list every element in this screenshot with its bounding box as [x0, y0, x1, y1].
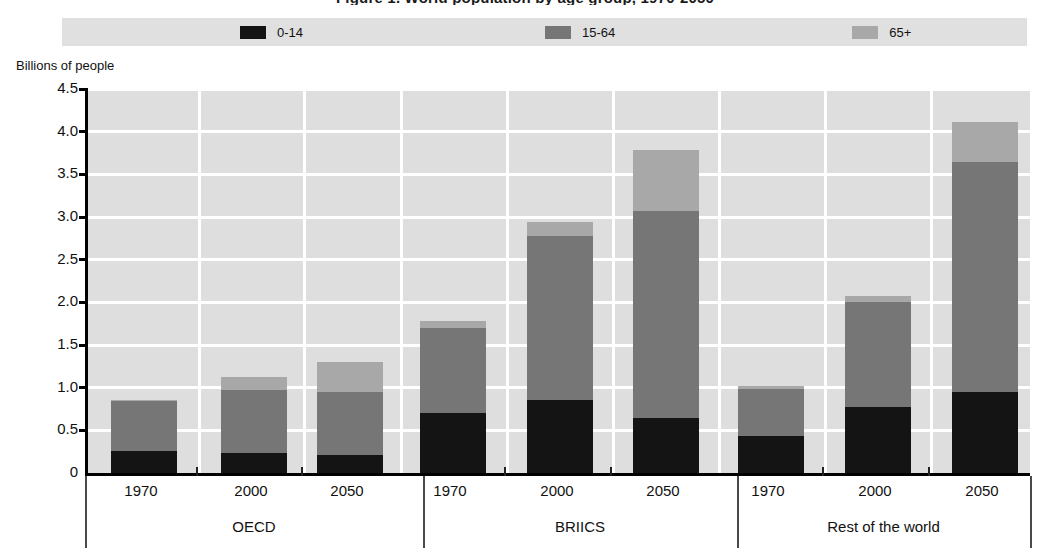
group-separator: [85, 476, 87, 548]
legend-item-0-14[interactable]: 0-14: [240, 25, 303, 40]
x-axis-tick: [301, 467, 303, 476]
bar-segment-15-64[interactable]: [527, 236, 593, 400]
legend-label-15-64: 15-64: [582, 25, 615, 40]
vertical-gridline: [612, 89, 615, 473]
y-axis-tick-label: 3.5: [20, 165, 78, 180]
x-axis-year-label: 1970: [405, 482, 495, 499]
x-axis-year-label: 2000: [512, 482, 602, 499]
bar-segment-15-64[interactable]: [845, 302, 911, 407]
bar-segment-65-plus[interactable]: [845, 296, 911, 302]
bar-segment-65-plus[interactable]: [633, 150, 699, 211]
y-axis-tick-label: 4.5: [20, 80, 78, 95]
plot-area: [85, 89, 1030, 476]
vertical-gridline: [400, 89, 403, 473]
x-axis-tick: [610, 467, 612, 476]
y-axis-tick-label: 1.0: [20, 379, 78, 394]
chart-title: Figure 1. World population by age group,…: [0, 0, 1050, 5]
gridline: [88, 173, 1030, 176]
y-axis-tick-label: 1.5: [20, 336, 78, 351]
y-axis-tick: [79, 216, 88, 219]
y-axis-tick: [79, 130, 88, 133]
vertical-gridline: [930, 89, 933, 473]
y-axis-tick: [79, 344, 88, 347]
bar-segment-15-64[interactable]: [633, 211, 699, 418]
bar-segment-0-14[interactable]: [527, 400, 593, 473]
bar-segment-0-14[interactable]: [317, 455, 383, 473]
y-axis-caption: Billions of people: [16, 58, 114, 73]
bar-segment-0-14[interactable]: [221, 453, 287, 473]
vertical-gridline: [506, 89, 509, 473]
bar-segment-0-14[interactable]: [111, 451, 177, 473]
x-axis-tick: [504, 467, 506, 476]
gridline: [88, 216, 1030, 219]
group-label-rest-of-the-world: Rest of the world: [734, 518, 1034, 535]
x-axis-year-label: 2000: [206, 482, 296, 499]
bar-segment-15-64[interactable]: [317, 392, 383, 455]
y-axis-tick-label: 0.5: [20, 421, 78, 436]
group-label-briics: BRIICS: [430, 518, 730, 535]
bar-segment-0-14[interactable]: [633, 418, 699, 473]
y-axis-tick-label: 3.0: [20, 208, 78, 223]
y-axis-tick: [79, 258, 88, 261]
y-axis-tick: [79, 429, 88, 432]
bar-segment-65-plus[interactable]: [420, 321, 486, 328]
legend-item-15-64[interactable]: 15-64: [545, 25, 615, 40]
bar-segment-65-plus[interactable]: [111, 400, 177, 401]
vertical-gridline: [198, 89, 201, 473]
bar-segment-15-64[interactable]: [111, 400, 177, 450]
legend-label-0-14: 0-14: [277, 25, 303, 40]
y-axis-tick: [79, 386, 88, 389]
y-axis-tick-label: 2.0: [20, 293, 78, 308]
vertical-gridline: [718, 89, 721, 473]
bar-segment-0-14[interactable]: [952, 392, 1018, 473]
bar-segment-65-plus[interactable]: [527, 222, 593, 236]
bar-segment-15-64[interactable]: [420, 328, 486, 413]
x-axis-year-label: 2000: [830, 482, 920, 499]
bar-segment-65-plus[interactable]: [221, 377, 287, 391]
bar-segment-15-64[interactable]: [952, 162, 1018, 392]
bar-segment-0-14[interactable]: [845, 407, 911, 473]
x-axis-tick: [196, 467, 198, 476]
legend-swatch-icon-65-plus: [852, 26, 878, 39]
gridline: [88, 130, 1030, 133]
y-axis-tick: [79, 173, 88, 176]
y-axis-tick: [79, 301, 88, 304]
bar-segment-15-64[interactable]: [221, 390, 287, 453]
y-axis-tick-label: 0: [20, 464, 78, 479]
legend-item-65-plus[interactable]: 65+: [852, 25, 911, 40]
plot-inner: [88, 89, 1030, 473]
group-separator: [1030, 476, 1032, 548]
legend-swatch-icon-15-64: [545, 26, 571, 39]
bar-segment-65-plus[interactable]: [738, 386, 804, 389]
vertical-gridline: [303, 89, 306, 473]
bar-segment-65-plus[interactable]: [317, 362, 383, 392]
x-axis-zone: 197020002050OECD197020002050BRIICS197020…: [85, 476, 1030, 554]
x-axis-tick: [928, 467, 930, 476]
x-axis-year-label: 2050: [937, 482, 1027, 499]
bar-segment-0-14[interactable]: [420, 413, 486, 473]
x-axis-year-label: 1970: [96, 482, 186, 499]
legend-swatch-icon-0-14: [240, 26, 266, 39]
x-axis-tick: [822, 467, 824, 476]
legend-label-65-plus: 65+: [889, 25, 911, 40]
group-label-oecd: OECD: [104, 518, 404, 535]
bar-segment-65-plus[interactable]: [952, 122, 1018, 161]
y-axis-tick-label: 2.5: [20, 251, 78, 266]
bar-segment-15-64[interactable]: [738, 389, 804, 436]
y-axis-tick: [79, 88, 88, 91]
vertical-gridline: [824, 89, 827, 473]
x-axis-year-label: 2050: [618, 482, 708, 499]
x-axis-year-label: 1970: [723, 482, 813, 499]
x-axis-year-label: 2050: [302, 482, 392, 499]
gridline: [88, 88, 1030, 91]
chart-legend: 0-14 15-64 65+: [62, 18, 1027, 46]
bar-segment-0-14[interactable]: [738, 436, 804, 473]
y-axis-tick-label: 4.0: [20, 123, 78, 138]
